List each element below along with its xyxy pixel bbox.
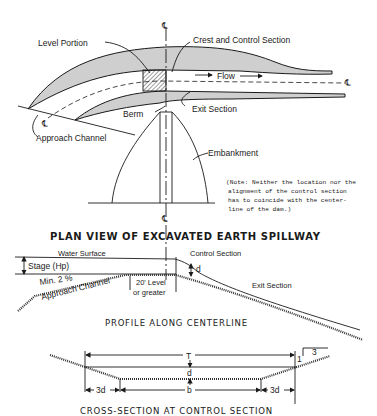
leader-berm	[155, 106, 165, 112]
spillway-diagram: ℄ Level Portion Crest and Control Sectio…	[0, 0, 377, 416]
exit-section-label: Exit Section	[192, 104, 237, 114]
cross-section-title: CROSS-SECTION AT CONTROL SECTION	[80, 406, 273, 416]
left-3d-label: 3d	[96, 385, 106, 395]
approach-ground-line	[18, 106, 135, 135]
or-greater-label: or greater	[133, 288, 166, 297]
flow-label: Flow	[217, 71, 236, 81]
centerline-symbol-right: ℄	[344, 78, 351, 88]
profile-view: Water Surface Stage (Hp) Control Section…	[15, 249, 363, 340]
control-section-label: Control Section	[190, 249, 241, 258]
level-portion-label: Level Portion	[38, 38, 88, 48]
note-line-3: has to coincide with the center-	[228, 197, 347, 204]
stage-label: Stage (Hp)	[28, 261, 69, 271]
embankment-label: Embankment	[208, 148, 259, 158]
exit-section-profile-label: Exit Section	[252, 281, 292, 290]
slope-rise-label: 1	[297, 354, 302, 364]
right-3d-label: 3d	[270, 385, 280, 395]
centerline-symbol-channel: ℄	[41, 119, 48, 129]
plan-view: ℄ Level Portion Crest and Control Sectio…	[18, 21, 356, 280]
berm-label: Berm	[123, 109, 143, 119]
d-label-cross: d	[187, 368, 192, 378]
level-length-label: 20' Level	[136, 278, 166, 287]
note-line-2: alignment of the control section	[228, 188, 347, 195]
b-label: b	[187, 385, 192, 395]
slope-run-label: 3	[312, 347, 317, 357]
note-line-4: line of the dam.)	[228, 206, 291, 213]
leader-embankment	[193, 153, 208, 160]
centerline-symbol-top: ℄	[161, 21, 168, 31]
cross-section-view: T 3 1 d 3d b 3d CROSS-SECTION AT CONTROL…	[50, 347, 330, 416]
profile-title: PROFILE ALONG CENTERLINE	[105, 318, 248, 328]
water-surface-label: Water Surface	[58, 249, 106, 258]
note-line-1: (Note: Neither the location nor the	[226, 179, 356, 186]
approach-channel-label: Approach Channel	[36, 133, 107, 143]
plan-view-title: PLAN VIEW OF EXCAVATED EARTH SPILLWAY	[50, 231, 321, 242]
control-section-box	[143, 70, 166, 91]
crest-control-label: Crest and Control Section	[193, 35, 291, 45]
T-label: T	[186, 351, 191, 361]
d-label-profile: d	[196, 264, 201, 274]
centerline-symbol-bottom: ℄	[161, 214, 168, 224]
